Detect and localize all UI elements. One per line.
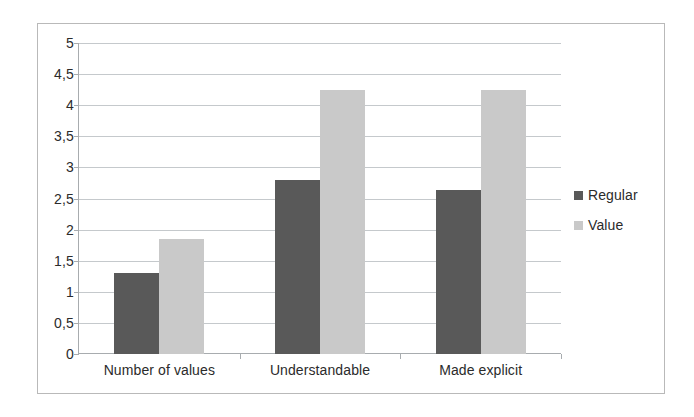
y-axis-tick	[74, 292, 79, 293]
x-axis-tick	[400, 354, 401, 359]
y-axis-tick	[74, 167, 79, 168]
legend-label: Value	[588, 217, 623, 233]
y-axis-tick	[74, 136, 79, 137]
gridline	[79, 43, 561, 44]
y-axis-tick-label: 4	[66, 97, 74, 113]
category-label-2: Made explicit	[439, 362, 522, 378]
legend-swatch-icon	[574, 221, 583, 230]
y-axis-tick	[74, 261, 79, 262]
y-axis-tick-label: 5	[66, 35, 74, 51]
bar-value-1	[320, 90, 365, 354]
y-axis-tick-label: 1	[66, 284, 74, 300]
category-label-0: Number of values	[104, 362, 215, 378]
y-axis-tick	[74, 105, 79, 106]
y-axis-tick	[74, 74, 79, 75]
y-axis-tick-label: 1,5	[54, 253, 74, 269]
x-axis-tick	[561, 354, 562, 359]
x-axis-tick	[240, 354, 241, 359]
y-axis-tick-label: 4,5	[54, 66, 74, 82]
y-axis-tick-label: 0,5	[54, 315, 74, 331]
bar-regular-1	[275, 180, 320, 354]
y-axis-tick	[74, 230, 79, 231]
y-axis-tick	[74, 323, 79, 324]
bar-value-0	[159, 239, 204, 354]
y-axis-tick-label: 2	[66, 222, 74, 238]
legend-swatch-icon	[574, 191, 583, 200]
chart-container: 00,511,522,533,544,55 Number of valuesUn…	[37, 23, 665, 394]
y-axis-tick-label: 0	[66, 346, 74, 362]
gridline	[79, 74, 561, 75]
y-axis-tick-label: 3	[66, 159, 74, 175]
legend-item-regular[interactable]: Regular	[574, 187, 658, 203]
bar-regular-2	[436, 190, 481, 354]
y-axis-tick	[74, 354, 79, 355]
bar-value-2	[481, 90, 526, 354]
category-label-1: Understandable	[270, 362, 370, 378]
y-axis-tick	[74, 199, 79, 200]
bar-regular-0	[114, 273, 159, 354]
y-axis-tick-labels: 00,511,522,533,544,55	[38, 43, 74, 354]
chart-legend: RegularValue	[574, 187, 658, 247]
y-axis-tick	[74, 43, 79, 44]
y-axis-tick-label: 3,5	[54, 128, 74, 144]
plot-area	[79, 43, 561, 354]
legend-label: Regular	[588, 187, 638, 203]
y-axis-tick-label: 2,5	[54, 191, 74, 207]
legend-item-value[interactable]: Value	[574, 217, 658, 233]
